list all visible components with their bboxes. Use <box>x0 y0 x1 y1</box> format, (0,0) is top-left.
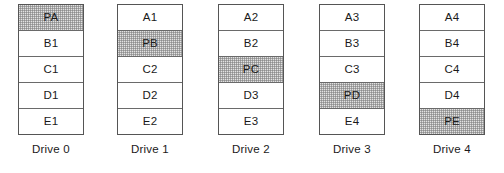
data-block: E3 <box>219 109 283 134</box>
block-label: PD <box>342 90 362 102</box>
data-block: E4 <box>320 109 384 134</box>
block-label: B2 <box>242 38 260 50</box>
block-label: C2 <box>140 64 159 76</box>
data-block: C4 <box>420 57 484 83</box>
block-label: D2 <box>140 90 159 102</box>
block-label: E1 <box>42 116 60 128</box>
block-label: C1 <box>41 64 60 76</box>
block-label: E4 <box>343 116 361 128</box>
parity-block: PC <box>219 57 283 83</box>
block-label: D3 <box>241 90 260 102</box>
drive-block-stack: PAB1C1D1E1 <box>18 4 84 135</box>
block-label: A3 <box>343 12 361 24</box>
drive-block-stack: A4B4C4D4PE <box>419 4 485 135</box>
block-label: A1 <box>141 12 159 24</box>
drive-caption: Drive 0 <box>18 143 84 155</box>
data-block: A3 <box>320 5 384 31</box>
block-label: B3 <box>343 38 361 50</box>
block-label: PA <box>42 12 61 24</box>
data-block: B4 <box>420 31 484 57</box>
data-block: D2 <box>118 83 182 109</box>
data-block: A1 <box>118 5 182 31</box>
drive-column-2: A2B2PCD3E3 <box>218 4 284 135</box>
drive-caption: Drive 2 <box>218 143 284 155</box>
drive-column-1: A1PBC2D2E2 <box>117 4 183 135</box>
block-label: E3 <box>242 116 260 128</box>
data-block: B2 <box>219 31 283 57</box>
parity-block: PE <box>420 109 484 134</box>
data-block: E1 <box>19 109 83 134</box>
data-block: B3 <box>320 31 384 57</box>
data-block: C1 <box>19 57 83 83</box>
data-block: B1 <box>19 31 83 57</box>
drive-column-3: A3B3C3PDE4 <box>319 4 385 135</box>
data-block: C3 <box>320 57 384 83</box>
drive-caption: Drive 4 <box>419 143 485 155</box>
parity-block: PB <box>118 31 182 57</box>
block-label: PE <box>442 116 462 128</box>
block-label: B1 <box>42 38 60 50</box>
block-label: D1 <box>41 90 60 102</box>
block-label: A2 <box>242 12 260 24</box>
block-label: A4 <box>443 12 461 24</box>
data-block: A2 <box>219 5 283 31</box>
raid-layout-diagram: PAB1C1D1E1Drive 0A1PBC2D2E2Drive 1A2B2PC… <box>0 0 504 173</box>
block-label: B4 <box>443 38 461 50</box>
drive-column-4: A4B4C4D4PE <box>419 4 485 135</box>
block-label: D4 <box>442 90 461 102</box>
block-label: PC <box>241 64 261 76</box>
block-label: C4 <box>442 64 461 76</box>
drive-block-stack: A1PBC2D2E2 <box>117 4 183 135</box>
block-label: C3 <box>342 64 361 76</box>
drive-block-stack: A3B3C3PDE4 <box>319 4 385 135</box>
drive-block-stack: A2B2PCD3E3 <box>218 4 284 135</box>
block-label: E2 <box>141 116 159 128</box>
parity-block: PA <box>19 5 83 31</box>
data-block: D3 <box>219 83 283 109</box>
drive-column-0: PAB1C1D1E1 <box>18 4 84 135</box>
data-block: D4 <box>420 83 484 109</box>
data-block: D1 <box>19 83 83 109</box>
data-block: E2 <box>118 109 182 134</box>
block-label: PB <box>140 38 160 50</box>
data-block: C2 <box>118 57 182 83</box>
parity-block: PD <box>320 83 384 109</box>
data-block: A4 <box>420 5 484 31</box>
drive-caption: Drive 3 <box>319 143 385 155</box>
drive-caption: Drive 1 <box>117 143 183 155</box>
